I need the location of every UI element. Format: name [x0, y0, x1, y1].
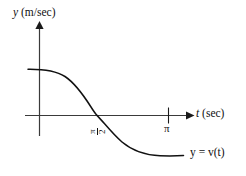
pi-half-denominator: 2: [98, 128, 107, 135]
t-axis-units-text: (sec): [202, 107, 224, 119]
pi-half-tick-label: π 2: [88, 119, 104, 135]
t-axis-arrowhead-icon: [186, 111, 195, 119]
velocity-curve: [28, 69, 184, 156]
velocity-graph-figure: y (m/sec) t (sec) π π 2 y = v(t): [0, 0, 246, 176]
y-axis: [35, 21, 43, 136]
y-axis-units-text: (m/sec): [21, 6, 55, 18]
t-axis: [25, 111, 195, 119]
t-axis-label: t (sec): [196, 108, 224, 120]
pi-tick-label: π: [164, 123, 170, 134]
y-axis-arrowhead-icon: [35, 21, 43, 29]
curve-label-rhs: v(t): [208, 146, 225, 158]
pi-half-fraction: π 2: [88, 128, 108, 135]
curve-equation-label: y = v(t): [190, 147, 225, 159]
pi-half-rotated-wrapper: π 2: [88, 128, 108, 135]
y-axis-label: y (m/sec): [13, 7, 55, 19]
